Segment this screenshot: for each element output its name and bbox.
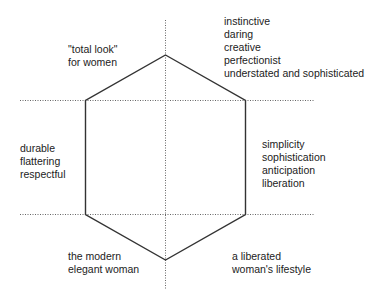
label-line: a liberated — [232, 250, 311, 263]
label-line: for women — [68, 56, 117, 69]
label-line: liberation — [262, 177, 326, 190]
label-line: understated and sophisticated — [224, 67, 364, 80]
label-line: "total look" — [68, 43, 117, 56]
label-middle-right: simplicity sophistication anticipation l… — [262, 138, 326, 190]
label-line: perfectionist — [224, 54, 364, 67]
label-bottom-left: the modern elegant woman — [68, 250, 139, 276]
label-bottom-right: a liberated woman's lifestyle — [232, 250, 311, 276]
label-line: durable — [20, 142, 66, 155]
label-line: creative — [224, 41, 364, 54]
label-line: daring — [224, 28, 364, 41]
label-top-right: instinctive daring creative perfectionis… — [224, 15, 364, 80]
label-line: simplicity — [262, 138, 326, 151]
label-line: sophistication — [262, 151, 326, 164]
label-line: woman's lifestyle — [232, 263, 311, 276]
label-line: instinctive — [224, 15, 364, 28]
label-top-left: "total look" for women — [68, 43, 117, 69]
label-line: the modern — [68, 250, 139, 263]
label-line: respectful — [20, 168, 66, 181]
label-line: anticipation — [262, 164, 326, 177]
label-middle-left: durable flattering respectful — [20, 142, 66, 181]
label-line: flattering — [20, 155, 66, 168]
label-line: elegant woman — [68, 263, 139, 276]
